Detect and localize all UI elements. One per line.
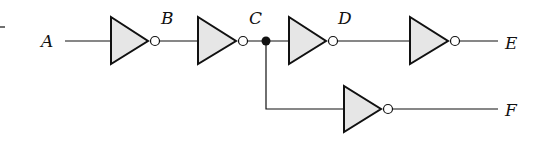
inverter-gate-4 [410,17,460,64]
label-d: D [337,8,352,28]
inverter-gate-3 [289,17,338,64]
inverter-gate-1 [111,17,160,64]
label-a: A [39,31,53,51]
inverter-gate-5 [344,86,393,132]
label-b: B [160,8,174,28]
label-f: F [504,100,518,120]
label-e: E [504,33,518,53]
inverter-circuit-diagram: A B C D E F [0,0,549,142]
junction-dot [262,37,271,46]
inverter-gate-2 [198,17,248,64]
label-c: C [249,8,262,28]
